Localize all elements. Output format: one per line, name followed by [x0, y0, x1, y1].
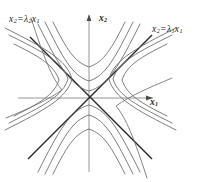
trajectory-right-2: [113, 35, 172, 123]
y-axis-label-sub: 2: [104, 17, 107, 23]
label-right-operator: =: [160, 24, 167, 34]
y-axis-arrowhead: [87, 14, 92, 21]
y-axis-label: x2: [99, 14, 107, 24]
x-axis-label-sub: 1: [155, 101, 158, 107]
trajectory-left-3: [5, 28, 72, 130]
asymptote-lambda1-label: x2=λ1x1: [152, 25, 183, 35]
label-right-rhs-sub: 1: [179, 28, 182, 34]
trajectory-left-2: [9, 35, 68, 123]
trajectory-outer-lower-right: [116, 78, 172, 178]
trajectory-right-3: [109, 28, 176, 130]
asymptote-lambda2-label: x2=λ2x1: [9, 15, 40, 25]
x-axis-label: x1: [150, 98, 158, 108]
phase-portrait-figure: x2=λ2x1 x2=λ1x1 x2 x1: [0, 0, 212, 182]
label-left-rhs-sub: 1: [36, 18, 39, 24]
label-left-operator: =: [17, 14, 24, 24]
